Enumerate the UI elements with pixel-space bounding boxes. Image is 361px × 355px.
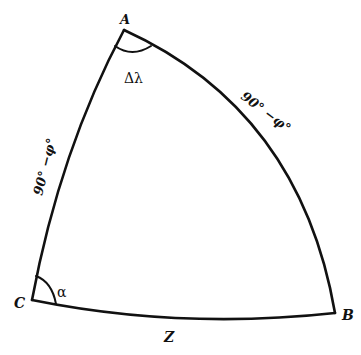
side-cb-label: Z — [163, 329, 175, 345]
side-ab — [124, 30, 335, 313]
side-ac-label: 90° −φ° — [30, 137, 59, 197]
vertex-c-label: C — [14, 295, 25, 311]
spherical-triangle-diagram: A B C Δλ α 90° −φ° 90° −φ° Z — [0, 0, 361, 355]
side-cb — [32, 300, 335, 319]
angle-c-label: α — [57, 284, 67, 300]
angle-a-label: Δλ — [124, 70, 143, 86]
vertex-b-label: B — [341, 307, 354, 323]
angle-arc-a — [115, 46, 151, 52]
side-ab-label: 90° −φ° — [238, 88, 294, 135]
vertex-a-label: A — [118, 12, 130, 27]
angle-arc-c — [36, 276, 56, 304]
